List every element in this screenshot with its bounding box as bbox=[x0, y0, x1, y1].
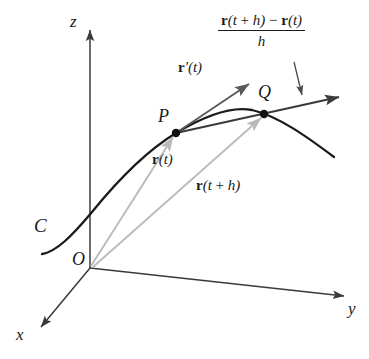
tangent-vector-label: r′(t) bbox=[178, 60, 202, 75]
secant-vector bbox=[176, 97, 339, 133]
difference-quotient-label: r(t + h) − r(t) h bbox=[218, 12, 305, 50]
position-vector-rt-label: r(t) bbox=[152, 152, 173, 167]
callout-pointer-arrow bbox=[294, 62, 302, 95]
x-axis bbox=[41, 268, 90, 327]
point-p-dot bbox=[172, 129, 180, 137]
figure-canvas bbox=[0, 0, 369, 359]
y-axis-label: y bbox=[348, 300, 356, 317]
quotient-numerator: r(t + h) − r(t) bbox=[218, 12, 305, 31]
z-axis-label: z bbox=[70, 13, 77, 30]
curve-label: C bbox=[34, 216, 47, 235]
x-axis-label: x bbox=[16, 326, 24, 343]
vector-derivative-figure: z y x O C P Q r(t) r(t + h) r′(t) r(t + … bbox=[0, 0, 369, 359]
origin-label: O bbox=[72, 250, 85, 268]
point-q-dot bbox=[260, 110, 268, 118]
quotient-denominator: h bbox=[218, 31, 305, 50]
point-q-label: Q bbox=[258, 83, 271, 101]
y-axis bbox=[90, 268, 344, 296]
position-vector-rt-plus-h-label: r(t + h) bbox=[196, 178, 240, 193]
point-p-label: P bbox=[158, 107, 169, 125]
